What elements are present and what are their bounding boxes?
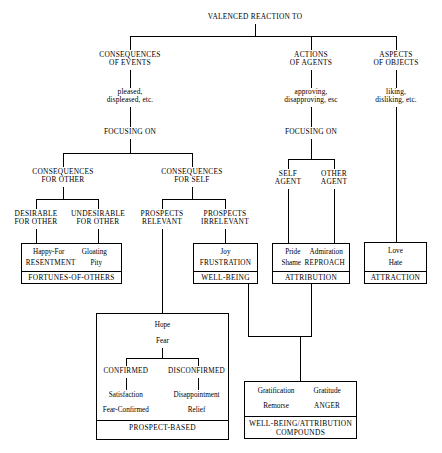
connector-self-agent-to-box <box>288 189 289 243</box>
connector-aoa-to-appraisal <box>311 70 312 88</box>
node-consequences-for-self: CONSEQUENCES FOR SELF <box>161 168 222 184</box>
connector-fear-down <box>162 348 163 358</box>
box-divider <box>97 420 228 421</box>
connector-to-consequences-for-other <box>63 153 64 167</box>
emotion-frustration: FRUSTRATION <box>200 259 251 267</box>
emotion-hate: Hate <box>389 259 403 267</box>
emotion-resentment: RESENTMENT <box>26 259 76 267</box>
connector-cfo-span <box>36 199 98 200</box>
connector-root-down <box>255 24 256 36</box>
group-label-well-being: WELL-BEING <box>194 274 257 283</box>
box-divider <box>365 271 426 272</box>
node-focusing-on-agents: FOCUSING ON <box>285 128 337 136</box>
box-divider <box>194 271 257 272</box>
emotion-fear: Fear <box>156 337 169 345</box>
emotion-pride: Pride <box>285 248 300 256</box>
box-divider <box>22 271 121 272</box>
connector-disconfirmed-down <box>198 378 199 390</box>
connector-to-aspects-of-objects <box>396 36 397 50</box>
node-prospects-irrelevant: PROSPECTS IRRELEVANT <box>201 210 249 226</box>
connector-root-span <box>130 36 396 37</box>
connector-to-confirmed <box>126 358 127 366</box>
box-attribution: Pride Admiration Shame REPROACH ATTRIBUT… <box>272 243 350 284</box>
node-confirmed: CONFIRMED <box>104 367 149 375</box>
node-consequences-for-other: CONSEQUENCES FOR OTHER <box>32 168 93 184</box>
connector-undesirable-to-box <box>98 229 99 243</box>
connector-aoo-to-appraisal <box>396 70 397 88</box>
emotion-fear-confirmed: Fear-Confirmed <box>103 406 149 414</box>
connector-consequences-span <box>63 153 192 154</box>
connector-cfo-down <box>63 187 64 199</box>
node-desirable-for-other: DESIRABLE FOR OTHER <box>14 210 57 226</box>
node-self-agent: SELF AGENT <box>275 170 301 186</box>
box-well-being: Joy FRUSTRATION WELL-BEING <box>193 243 258 284</box>
node-other-agent: OTHER AGENT <box>321 170 347 186</box>
connector-cfs-down <box>192 187 193 199</box>
connector-compounds-span <box>248 336 312 337</box>
node-appraisal-approving-disapproving: approving, disapproving, esc <box>284 88 337 104</box>
node-undesirable-for-other: UNDESIRABLE FOR OTHER <box>71 210 125 226</box>
box-divider <box>245 416 356 417</box>
connector-to-consequences-of-events <box>130 36 131 50</box>
connector-focusing-events-down <box>130 139 131 153</box>
box-well-being-attribution-compounds: Gratification Gratitude Remorse ANGER WE… <box>244 381 357 439</box>
group-label-attraction: ATTRACTION <box>365 274 426 283</box>
node-disconfirmed: DISCONFIRMED <box>168 367 225 375</box>
connector-to-compounds-box <box>300 336 301 381</box>
emotion-disappointment: Disappointment <box>174 391 220 399</box>
connector-to-prospects-irrelevant <box>225 199 226 209</box>
node-appraisal-pleased-displeased: pleased, displeased, etc. <box>107 88 154 104</box>
emotion-relief: Relief <box>188 406 206 414</box>
connector-prospects-relevant-to-box <box>162 229 163 313</box>
occ-emotion-model-diagram: VALENCED REACTION TO CONSEQUENCES OF EVE… <box>0 0 442 453</box>
box-fortunes-of-others: Happy-For Gloating RESENTMENT Pity FORTU… <box>21 243 122 284</box>
emotion-pity: Pity <box>90 259 102 267</box>
connector-coe-appraisal-to-focusing <box>130 107 131 127</box>
node-actions-of-agents: ACTIONS OF AGENTS <box>290 51 332 67</box>
node-valenced-reaction-to: VALENCED REACTION TO <box>208 13 303 21</box>
emotion-hope: Hope <box>155 321 171 329</box>
node-prospects-relevant: PROSPECTS RELEVANT <box>141 210 184 226</box>
emotion-gloating: Gloating <box>82 248 107 256</box>
node-focusing-on-events: FOCUSING ON <box>104 128 156 136</box>
emotion-anger: ANGER <box>314 402 340 410</box>
connector-prospect-span <box>126 358 198 359</box>
group-label-fortunes-of-others: FORTUNES-OF-OTHERS <box>22 274 121 283</box>
connector-attribution-down <box>311 284 312 336</box>
connector-cfs-span <box>162 199 225 200</box>
connector-to-consequences-for-self <box>192 153 193 167</box>
emotion-gratitude: Gratitude <box>314 387 341 395</box>
emotion-love: Love <box>388 247 403 255</box>
emotion-admiration: Admiration <box>310 248 343 256</box>
connector-well-being-down <box>248 284 249 336</box>
connector-prospects-irrelevant-to-box <box>225 229 226 243</box>
group-label-attribution: ATTRIBUTION <box>273 274 349 283</box>
connector-to-actions-of-agents <box>311 36 312 50</box>
box-attraction: Love Hate ATTRACTION <box>364 242 427 284</box>
box-divider <box>273 271 349 272</box>
connector-other-agent-to-box <box>334 189 335 243</box>
connector-to-desirable-for-other <box>36 199 37 209</box>
node-appraisal-liking-disliking: liking, disliking, etc. <box>375 88 417 104</box>
box-prospect-based: Hope Fear CONFIRMED DISCONFIRMED Satisfa… <box>96 313 229 440</box>
connector-focusing-agents-down <box>311 139 312 159</box>
connector-agents-span <box>288 159 334 160</box>
connector-to-prospects-relevant <box>162 199 163 209</box>
emotion-remorse: Remorse <box>263 402 289 410</box>
emotion-joy: Joy <box>221 248 231 256</box>
connector-to-disconfirmed <box>198 358 199 366</box>
connector-coe-to-appraisal <box>130 70 131 88</box>
connector-confirmed-down <box>126 378 127 390</box>
connector-aoo-to-attraction-box <box>396 107 397 242</box>
emotion-reproach: REPROACH <box>305 259 345 267</box>
connector-aoa-appraisal-to-focusing <box>311 107 312 127</box>
connector-to-undesirable-for-other <box>98 199 99 209</box>
connector-desirable-to-box <box>36 229 37 243</box>
emotion-gratification: Gratification <box>258 387 295 395</box>
connector-to-self-agent <box>288 159 289 169</box>
emotion-shame: Shame <box>281 259 301 267</box>
node-consequences-of-events: CONSEQUENCES OF EVENTS <box>99 51 160 67</box>
group-label-compounds: WELL-BEING/ATTRIBUTION COMPOUNDS <box>245 420 356 437</box>
emotion-happy-for: Happy-For <box>33 248 65 256</box>
group-label-prospect-based: PROSPECT-BASED <box>97 424 228 433</box>
